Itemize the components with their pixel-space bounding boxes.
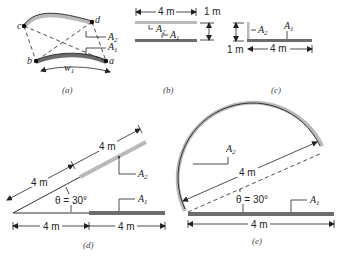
label-inclined-length-d: 4 m — [99, 141, 116, 152]
caption-d: (d) — [83, 240, 94, 250]
caption-a: (a) — [62, 85, 73, 95]
point-b — [34, 59, 38, 63]
label-chord-e: 4 m — [239, 167, 256, 178]
label-b: b — [27, 55, 32, 66]
point-d — [90, 20, 94, 24]
label-inclined-gap-d: 4 m — [31, 177, 48, 188]
label-c: c — [17, 20, 22, 31]
label-a2-e: A2 — [225, 143, 236, 156]
dashed-line-da — [92, 22, 106, 61]
label-a2-b: A2 — [155, 23, 166, 36]
label-a1-c: A1 — [283, 20, 294, 33]
label-a2-d: A2 — [137, 168, 148, 181]
label-4m-b: 4 m — [158, 6, 175, 17]
label-horizontal-length-d: 4 m — [118, 221, 135, 232]
label-horizontal-gap-d: 4 m — [43, 221, 60, 232]
label-a1-e: A1 — [309, 194, 320, 207]
label-a2-c: A2 — [257, 24, 268, 37]
point-c — [22, 24, 26, 28]
surface-a1-d — [89, 211, 165, 215]
panel-d: 4 m 4 m A2 A1 θ = 30° 4 m 4 m (d) — [7, 125, 165, 250]
angle-label-e: θ = 30° — [236, 194, 268, 205]
caption-c: (c) — [271, 85, 281, 95]
label-1m-c: 1 m — [227, 44, 244, 55]
angle-label-d: θ = 30° — [55, 195, 87, 206]
label-base-e: 4 m — [251, 219, 268, 230]
surface-a2-c — [247, 22, 250, 41]
surface-a1-c — [247, 39, 312, 42]
label-4m-c: 4 m — [270, 43, 287, 54]
label-w1: w1 — [64, 62, 74, 75]
label-a1-d: A1 — [137, 193, 148, 206]
panel-e: 4 m A2 θ = 30° A1 4 m (e) — [178, 103, 334, 246]
caption-e: (e) — [252, 236, 262, 246]
panel-c: 1 m A2 A1 4 m (c) — [227, 20, 312, 95]
surface-a1-e — [188, 212, 334, 216]
label-a: a — [109, 55, 114, 66]
surface-a1-b — [135, 39, 197, 42]
label-d: d — [95, 14, 101, 25]
view-factor-figure: c d b a A2 A1 w1 (a) 4 m A2 A1 1 m (b) — [0, 0, 349, 265]
width-dimension-w1 — [41, 67, 110, 72]
surface-a2-curved — [24, 15, 92, 27]
surface-a2-b — [135, 21, 197, 24]
panel-a: c d b a A2 A1 w1 (a) — [17, 13, 118, 95]
label-1m-b: 1 m — [204, 6, 221, 17]
point-a — [104, 59, 108, 63]
caption-b: (b) — [163, 85, 174, 95]
panel-b: 4 m A2 A1 1 m (b) — [135, 6, 221, 95]
